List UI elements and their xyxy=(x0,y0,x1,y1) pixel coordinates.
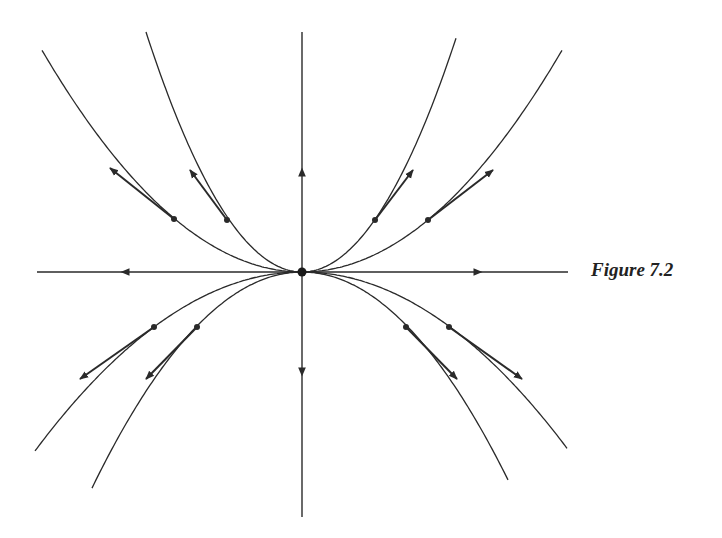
tangent-vector-arrow xyxy=(80,327,154,379)
trajectory-lower-inner xyxy=(92,272,508,488)
tangent-vector-arrow xyxy=(449,327,522,379)
equilibrium-point xyxy=(298,268,307,277)
tangent-vector-arrow xyxy=(110,168,174,219)
trajectory-point xyxy=(194,324,200,330)
trajectories xyxy=(35,32,567,488)
trajectory-point xyxy=(171,216,177,222)
trajectory-point xyxy=(372,217,378,223)
trajectory-point xyxy=(446,324,452,330)
tangent-vector-arrow xyxy=(190,170,227,220)
trajectory-point xyxy=(425,217,431,223)
trajectory-point xyxy=(224,217,230,223)
figure-caption: Figure 7.2 xyxy=(591,259,673,281)
trajectory-upper-inner xyxy=(146,32,456,272)
arrowhead-icon xyxy=(298,368,306,377)
arrowhead-icon xyxy=(121,268,130,276)
arrowhead-icon xyxy=(474,268,483,276)
trajectory-point xyxy=(403,324,409,330)
trajectory-lower-outer xyxy=(35,272,567,451)
tangent-vector-arrow xyxy=(406,327,457,379)
trajectory-point xyxy=(151,324,157,330)
tangent-vector-arrow xyxy=(146,327,197,379)
tangent-vector-arrow xyxy=(375,170,413,220)
arrowhead-icon xyxy=(298,168,306,177)
tangent-vector-arrow xyxy=(428,170,493,220)
